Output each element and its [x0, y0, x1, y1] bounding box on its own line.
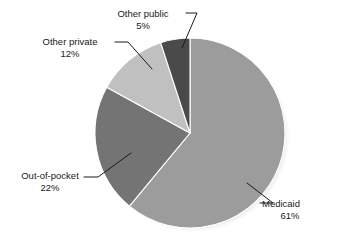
pie-label-other-public: Other public 5% [100, 8, 186, 31]
pie-label-other-private-value: 12% [24, 48, 116, 60]
pie-label-medicaid-value: 61% [262, 210, 318, 222]
pie-label-medicaid-name: Medicaid [262, 198, 342, 210]
pie-label-other-public-name: Other public [100, 8, 186, 20]
pie-label-out-of-pocket-value: 22% [2, 182, 98, 194]
pie-chart-figure: Other public 5% Other private 12% Out-of… [0, 0, 348, 244]
pie-label-out-of-pocket: Out-of-pocket 22% [2, 170, 98, 193]
pie-label-out-of-pocket-name: Out-of-pocket [2, 170, 98, 182]
pie-label-other-private-name: Other private [24, 36, 116, 48]
pie-label-other-public-value: 5% [100, 20, 186, 32]
pie-label-other-private: Other private 12% [24, 36, 116, 59]
pie-label-medicaid: Medicaid 61% [262, 198, 342, 221]
